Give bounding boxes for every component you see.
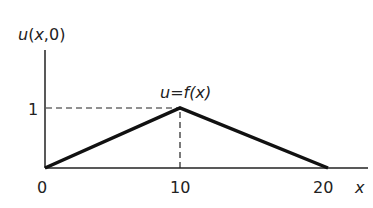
y-axis-label: u(x,0) bbox=[18, 25, 65, 44]
x-tick-0: 0 bbox=[37, 178, 47, 197]
x-axis-label: x bbox=[354, 178, 365, 197]
chart: u(x,0) 1 u=f(x) 0 10 20 x bbox=[0, 0, 373, 208]
x-tick-10: 10 bbox=[170, 178, 190, 197]
x-tick-20: 20 bbox=[313, 178, 333, 197]
annotation-label: u=f(x) bbox=[160, 83, 211, 102]
series-line bbox=[45, 108, 328, 168]
y-tick-1: 1 bbox=[28, 100, 38, 119]
